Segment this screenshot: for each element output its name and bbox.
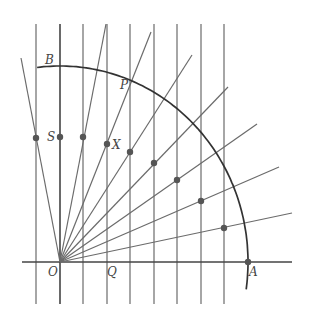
- point-dot: [174, 177, 180, 183]
- rays-from-origin: [21, 24, 292, 262]
- point-dot: [33, 135, 39, 141]
- point-dot: [57, 134, 63, 140]
- geometry-diagram: B P S X O Q A: [0, 0, 315, 326]
- label-a: A: [248, 265, 258, 279]
- label-s: S: [47, 130, 55, 144]
- point-dot: [151, 160, 157, 166]
- intersection-dots: [33, 134, 251, 265]
- point-dot: [198, 198, 204, 204]
- ray: [60, 167, 279, 262]
- label-p: P: [119, 78, 129, 92]
- label-x: X: [111, 138, 121, 152]
- point-dot: [104, 141, 110, 147]
- point-dot: [221, 225, 227, 231]
- ray: [60, 87, 228, 262]
- label-q: Q: [107, 265, 117, 279]
- ray: [21, 58, 60, 262]
- label-o: O: [48, 265, 58, 279]
- point-dot: [127, 149, 133, 155]
- point-dot: [80, 134, 86, 140]
- label-b: B: [44, 53, 54, 67]
